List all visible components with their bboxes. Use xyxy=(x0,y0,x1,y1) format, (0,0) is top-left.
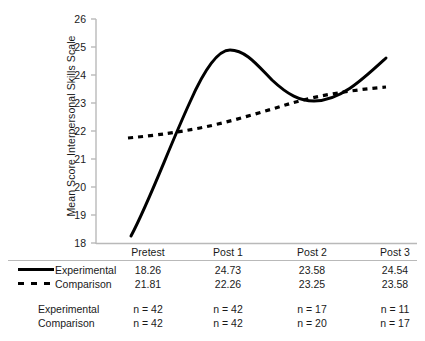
legend-label-experimental: Experimental xyxy=(55,264,116,276)
plot-svg xyxy=(0,0,425,250)
data-table: Pretest Post 1 Post 2 Post 3 Experimenta… xyxy=(0,246,425,341)
n-value-comparison-post-1: n = 42 xyxy=(190,317,266,329)
table-value-experimental-post-3: 24.54 xyxy=(357,264,425,276)
chart-figure: Mean Score Interpersonal Skills Scale 26… xyxy=(0,0,425,341)
n-value-experimental-post-3: n = 11 xyxy=(357,303,425,315)
table-value-experimental-post-1: 24.73 xyxy=(190,264,266,276)
table-value-comparison-post-1: 22.26 xyxy=(190,278,266,290)
legend-label-comparison: Comparison xyxy=(55,278,112,290)
n-value-comparison-post-3: n = 17 xyxy=(357,317,425,329)
table-value-comparison-pretest: 21.81 xyxy=(110,278,186,290)
table-value-comparison-post-3: 23.58 xyxy=(357,278,425,290)
table-value-experimental-pretest: 18.26 xyxy=(110,264,186,276)
y-axis-ticks xyxy=(91,19,96,243)
legend-swatch-comparison xyxy=(18,278,54,288)
table-divider xyxy=(8,260,417,261)
line-series-experimental xyxy=(131,50,386,236)
line-series-comparison xyxy=(128,87,386,138)
table-column-header-pretest: Pretest xyxy=(110,246,186,258)
n-value-comparison-pretest: n = 42 xyxy=(110,317,186,329)
plot-area: Mean Score Interpersonal Skills Scale 26… xyxy=(0,0,425,250)
table-column-header-post-2: Post 2 xyxy=(274,246,350,258)
table-column-header-post-3: Post 3 xyxy=(357,246,425,258)
table-column-header-post-1: Post 1 xyxy=(190,246,266,258)
n-row-label-experimental: Experimental xyxy=(38,303,99,315)
n-value-experimental-post-2: n = 17 xyxy=(274,303,350,315)
legend-swatch-experimental xyxy=(18,264,54,274)
n-value-comparison-post-2: n = 20 xyxy=(274,317,350,329)
n-row-label-comparison: Comparison xyxy=(38,317,95,329)
n-value-experimental-pretest: n = 42 xyxy=(110,303,186,315)
n-value-experimental-post-1: n = 42 xyxy=(190,303,266,315)
table-value-experimental-post-2: 23.58 xyxy=(274,264,350,276)
table-value-comparison-post-2: 23.25 xyxy=(274,278,350,290)
